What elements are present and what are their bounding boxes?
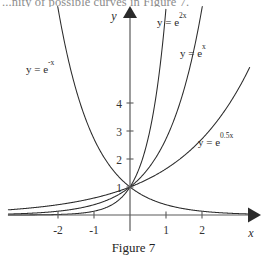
label-e-neg-x: y = e-x (26, 58, 55, 76)
x-tick-label: 2 (199, 224, 205, 236)
y-tick-label: 1 (116, 182, 122, 194)
figure-caption: Figure 7 (0, 240, 267, 256)
curve-2 (8, 9, 166, 215)
curve-1 (8, 7, 202, 215)
figure-container: ...nity of possible curves in Figure 7. … (0, 0, 267, 265)
label-e-2x: y = e2x (157, 11, 187, 29)
curves-group (8, 7, 249, 215)
x-tick-label: 1 (163, 224, 169, 236)
y-tick-label: 3 (116, 126, 122, 138)
y-tick-label: 2 (116, 154, 122, 166)
x-tick-label: -2 (53, 224, 63, 236)
label-e-x: y = ex (180, 42, 206, 60)
x-tick-label: -1 (89, 224, 99, 236)
label-e-05x: y = e0.5x (198, 131, 233, 149)
x-axis-arrowhead (248, 208, 261, 223)
axes-group (8, 6, 261, 231)
y-axis-label: y (110, 9, 117, 23)
y-tick-label: 4 (116, 98, 122, 110)
x-axis-label: x (247, 226, 254, 240)
exponential-curves-plot: -2-1121234 x y y = e-xy = e2xy = exy = e… (0, 0, 267, 265)
y-axis-arrowhead (123, 6, 137, 18)
